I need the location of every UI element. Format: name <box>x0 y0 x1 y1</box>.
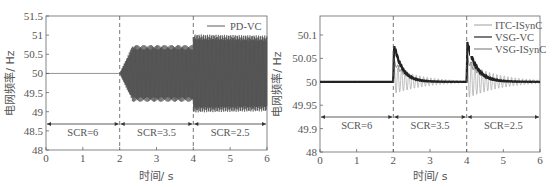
x-tick-label: 3 <box>154 152 160 164</box>
x-tick-label: 3 <box>427 154 433 166</box>
region-label: SCR=3.5 <box>411 120 450 131</box>
x-tick-label: 4 <box>191 152 197 164</box>
y-tick-label: 50 <box>306 76 318 88</box>
region-label: SCR=6 <box>341 120 372 131</box>
y-tick-label: 49 <box>32 106 44 118</box>
y-tick-label: 51.5 <box>24 10 44 22</box>
y-tick-label: 50.1 <box>298 29 317 41</box>
x-tick-label: 5 <box>501 154 507 166</box>
right-legend: ITC-ISynC VSG-VC VSG-ISynC <box>470 18 546 56</box>
legend-label-vsgisync: VSG-ISynC <box>495 44 546 55</box>
right-scr-regions: SCR=6SCR=3.5SCR=2.5 <box>321 115 539 131</box>
right-chart: 4849.949.955050.0550.1 0123456 ITC-ISynC… <box>270 16 546 183</box>
x-tick-label: 0 <box>43 152 49 164</box>
legend-label-pdvc: PD-VC <box>230 21 262 32</box>
right-y-ticks: 4849.949.955050.0550.1 <box>292 29 323 158</box>
y-tick-label: 51 <box>32 29 43 41</box>
y-tick-label: 50 <box>32 67 44 79</box>
figure: 4848.54949.55050.55151.5 0123456 PD-VC S… <box>0 0 553 187</box>
x-tick-label: 1 <box>80 152 86 164</box>
y-tick-label: 50.5 <box>24 48 44 60</box>
legend-label-vsgvc: VSG-VC <box>495 32 534 43</box>
y-tick-label: 50.05 <box>292 52 317 64</box>
left-x-axis-label: 时间/ s <box>139 170 174 183</box>
left-y-ticks: 4848.54949.55050.55151.5 <box>24 10 49 156</box>
y-tick-label: 48 <box>306 146 318 158</box>
right-y-axis-label: 电网频率/ Hz <box>270 51 284 116</box>
legend-label-itc: ITC-ISynC <box>495 20 542 31</box>
left-y-axis-label: 电网频率/ Hz <box>3 50 17 115</box>
x-tick-label: 2 <box>391 154 397 166</box>
y-tick-label: 49.5 <box>24 87 44 99</box>
region-label: SCR=2.5 <box>484 120 523 131</box>
x-tick-label: 6 <box>537 154 543 166</box>
y-tick-label: 49.95 <box>292 99 317 111</box>
region-label: SCR=2.5 <box>211 127 250 138</box>
region-label: SCR=6 <box>67 127 98 138</box>
y-tick-label: 48.5 <box>24 125 44 137</box>
left-scr-regions: SCR=6SCR=3.5SCR=2.5 <box>47 122 266 138</box>
y-tick-label: 48 <box>32 144 44 156</box>
x-tick-label: 2 <box>117 152 123 164</box>
region-label: SCR=3.5 <box>137 127 176 138</box>
x-tick-label: 4 <box>464 154 470 166</box>
right-x-axis-label: 时间/ s <box>413 170 448 183</box>
x-tick-label: 1 <box>354 154 360 166</box>
left-chart: 4848.54949.55050.55151.5 0123456 PD-VC S… <box>3 10 270 183</box>
x-tick-label: 5 <box>227 152 233 164</box>
x-tick-label: 0 <box>317 154 323 166</box>
y-tick-label: 49.9 <box>298 123 318 135</box>
x-tick-label: 6 <box>264 152 270 164</box>
